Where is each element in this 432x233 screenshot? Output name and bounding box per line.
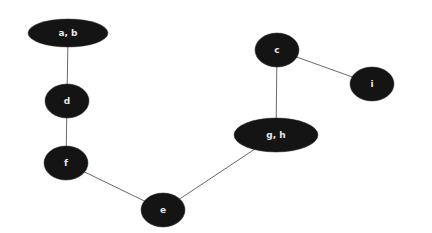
node-label: f	[64, 158, 68, 168]
node-label: g, h	[266, 130, 285, 140]
node-i[interactable]: i	[350, 67, 394, 101]
node-label: i	[370, 79, 373, 89]
node-label: e	[160, 205, 166, 215]
node-label: d	[64, 96, 70, 106]
node-d[interactable]: d	[45, 84, 89, 118]
node-e[interactable]: e	[141, 193, 185, 227]
node-gh[interactable]: g, h	[234, 118, 318, 152]
graph-canvas: a, bdfeg, hci	[0, 0, 432, 233]
node-label: c	[274, 45, 279, 55]
nodes-layer: a, bdfeg, hci	[28, 19, 394, 227]
node-label: a, b	[58, 28, 78, 38]
edges-layer	[66, 33, 372, 210]
node-c[interactable]: c	[255, 33, 299, 67]
node-f[interactable]: f	[44, 146, 88, 180]
node-ab[interactable]: a, b	[28, 19, 108, 47]
